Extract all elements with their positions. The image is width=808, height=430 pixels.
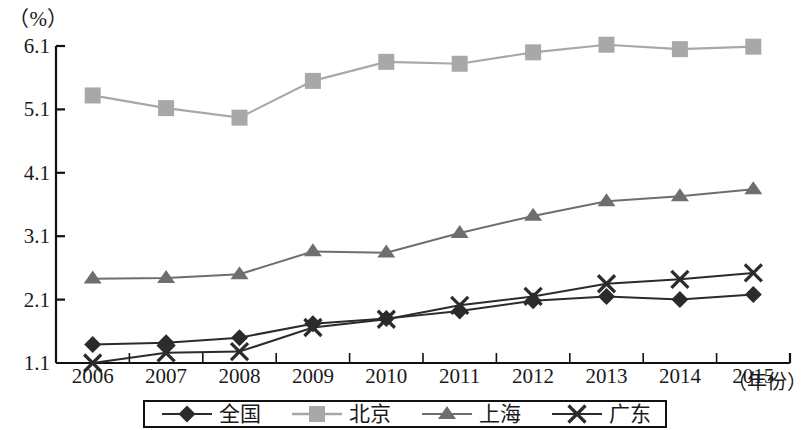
- legend-item-label: 上海: [476, 404, 521, 425]
- square-marker: [599, 37, 615, 53]
- triangle-marker: [157, 270, 175, 283]
- series-line: [93, 189, 754, 278]
- square-marker: [232, 110, 248, 126]
- triangle-marker: [420, 403, 474, 425]
- series-line: [93, 45, 754, 118]
- square-marker: [85, 87, 101, 103]
- legend-item-label: 全国: [216, 404, 261, 425]
- x-axis-name-label: （年份）: [727, 366, 807, 395]
- square-marker: [452, 56, 468, 72]
- x-axis-tick-label: 2009: [292, 366, 334, 387]
- square-marker: [672, 41, 688, 57]
- legend-item[interactable]: 广东: [550, 403, 651, 425]
- x-axis-tick-label: 2008: [219, 366, 261, 387]
- plot-area: [0, 0, 808, 400]
- square-marker: [158, 100, 174, 116]
- x-axis-tick-label: 2014: [659, 366, 701, 387]
- triangle-marker: [304, 243, 322, 256]
- series-line: [93, 273, 754, 363]
- triangle-marker: [438, 406, 456, 419]
- square-marker: [290, 403, 344, 425]
- x-axis-tick-label: 2010: [365, 366, 407, 387]
- legend-item[interactable]: 上海: [420, 403, 521, 425]
- square-marker: [525, 44, 541, 60]
- diamond-marker: [84, 336, 101, 353]
- diamond-marker: [671, 291, 688, 308]
- series-北京: [85, 37, 762, 126]
- cross-marker: [550, 403, 604, 425]
- diamond-marker: [160, 403, 214, 425]
- legend-item[interactable]: 北京: [290, 403, 391, 425]
- legend-item-label: 广东: [606, 404, 651, 425]
- triangle-marker: [744, 181, 762, 194]
- chart-legend: 全国北京上海广东: [143, 400, 667, 428]
- x-axis-tick-label: 2007: [145, 366, 187, 387]
- series-全国: [84, 286, 762, 353]
- square-marker: [745, 39, 761, 55]
- series-line: [93, 295, 754, 345]
- legend-item[interactable]: 全国: [160, 403, 261, 425]
- x-axis-tick-label: 2006: [72, 366, 114, 387]
- triangle-marker: [598, 193, 616, 206]
- employment-rate-line-chart: （%） 1.12.13.14.15.16.1 20062007200820092…: [0, 0, 808, 430]
- x-axis-tick-label: 2013: [586, 366, 628, 387]
- series-上海: [84, 181, 763, 283]
- diamond-marker: [178, 406, 195, 423]
- square-marker: [305, 73, 321, 89]
- square-marker: [309, 406, 325, 422]
- x-axis-tick-label: 2011: [439, 366, 480, 387]
- legend-item-label: 北京: [346, 404, 391, 425]
- square-marker: [378, 54, 394, 70]
- x-axis-tick-label: 2012: [512, 366, 554, 387]
- triangle-marker: [84, 271, 102, 284]
- diamond-marker: [745, 286, 762, 303]
